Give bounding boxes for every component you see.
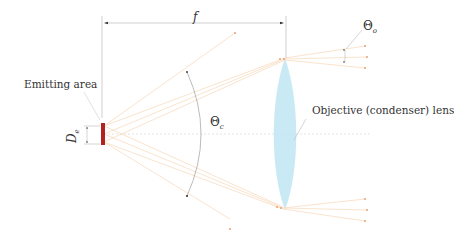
emitter-size-label: De — [66, 129, 81, 143]
emitting-area-label: Emitting area — [24, 79, 97, 90]
collection-angle-sub: c — [220, 123, 224, 131]
emitter — [101, 123, 105, 145]
lens-label: Objective (condenser) lens — [312, 105, 454, 116]
output-angle-symbol: Θ — [363, 19, 373, 33]
emitter-size-symbol: D — [65, 133, 79, 143]
arc-arrow-top — [186, 71, 188, 73]
output-angle-label: Θo — [363, 20, 377, 35]
focal-length-dimension — [102, 16, 286, 118]
collection-angle-label: Θc — [210, 116, 224, 131]
emitter-size-sub: e — [73, 129, 81, 133]
output-angle-sub: o — [373, 27, 377, 35]
emitting-area-leader — [84, 92, 100, 120]
emitter-size-dimension — [84, 126, 100, 144]
ray-bundle-lower — [104, 126, 367, 221]
ray-bundle-upper — [104, 33, 367, 142]
collection-angle-symbol: Θ — [210, 115, 220, 129]
objective-lens — [274, 58, 297, 210]
arc-arrow-bottom — [186, 195, 188, 197]
focal-length-label: f — [193, 11, 197, 23]
